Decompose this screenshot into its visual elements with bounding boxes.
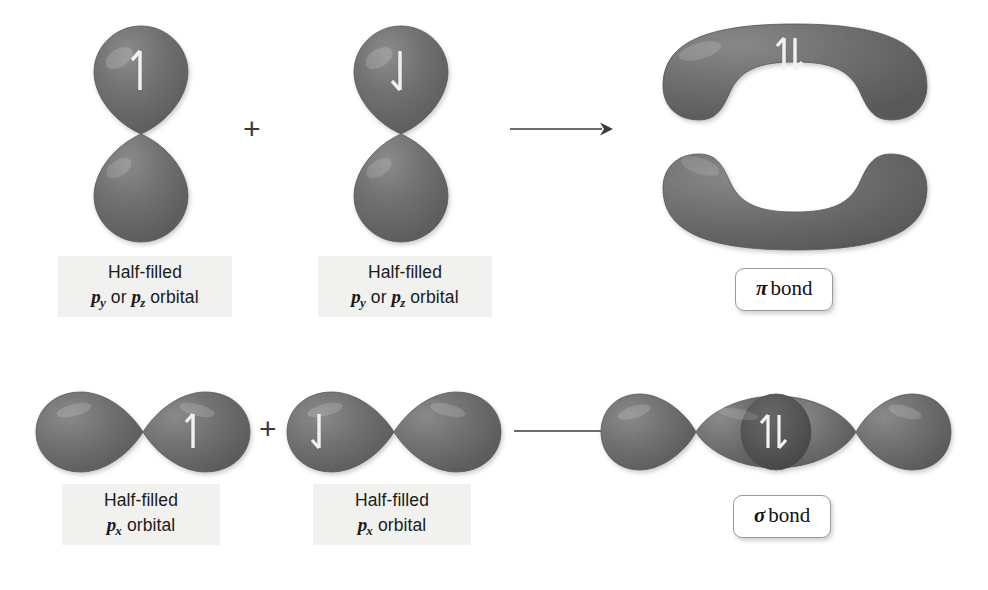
bond-word: bond xyxy=(770,276,812,300)
label-line-2: px orbital xyxy=(322,512,462,539)
px-orbital-horizontal-spin-down xyxy=(283,386,505,478)
px-orbital-horizontal-spin-up xyxy=(32,386,254,478)
label-line-1: Half-filled xyxy=(71,489,211,512)
label-line-2: py or pz orbital xyxy=(67,284,223,311)
label-line-2: px orbital xyxy=(71,512,211,539)
pi-symbol: π xyxy=(756,276,767,300)
label-half-filled-px-right: Half-filled px orbital xyxy=(313,484,471,545)
figure-canvas: Half-filled py or pz orbital + Half-fill… xyxy=(0,0,988,590)
sigma-symbol: σ xyxy=(754,503,765,527)
sigma-bond-orbital xyxy=(600,386,952,478)
p-orbital-vertical-spin-up xyxy=(78,18,204,250)
label-half-filled-pypz-right: Half-filled py or pz orbital xyxy=(318,256,492,317)
pi-bond-orbital xyxy=(645,16,945,256)
label-line-1: Half-filled xyxy=(322,489,462,512)
sigma-overlap-region xyxy=(741,394,811,470)
plus-sign-row2: + xyxy=(259,414,277,444)
label-line-1: Half-filled xyxy=(327,261,483,284)
sigma-lobe-far-right xyxy=(856,394,951,470)
label-line-2: py or pz orbital xyxy=(327,284,483,311)
label-half-filled-px-left: Half-filled px orbital xyxy=(62,484,220,545)
label-line-1: Half-filled xyxy=(67,261,223,284)
p-lobe-bottom xyxy=(354,134,448,242)
label-half-filled-pypz-left: Half-filled py or pz orbital xyxy=(58,256,232,317)
reaction-arrow-row1 xyxy=(508,118,618,140)
bond-word: bond xyxy=(768,503,810,527)
p-lobe-bottom xyxy=(94,134,188,242)
p-orbital-vertical-spin-down xyxy=(338,18,464,250)
sigma-bond-label-box: σbond xyxy=(733,495,831,538)
plus-sign-row1: + xyxy=(243,114,261,144)
sigma-lobe-far-left xyxy=(601,394,696,470)
pi-bond-label-box: πbond xyxy=(735,268,833,311)
